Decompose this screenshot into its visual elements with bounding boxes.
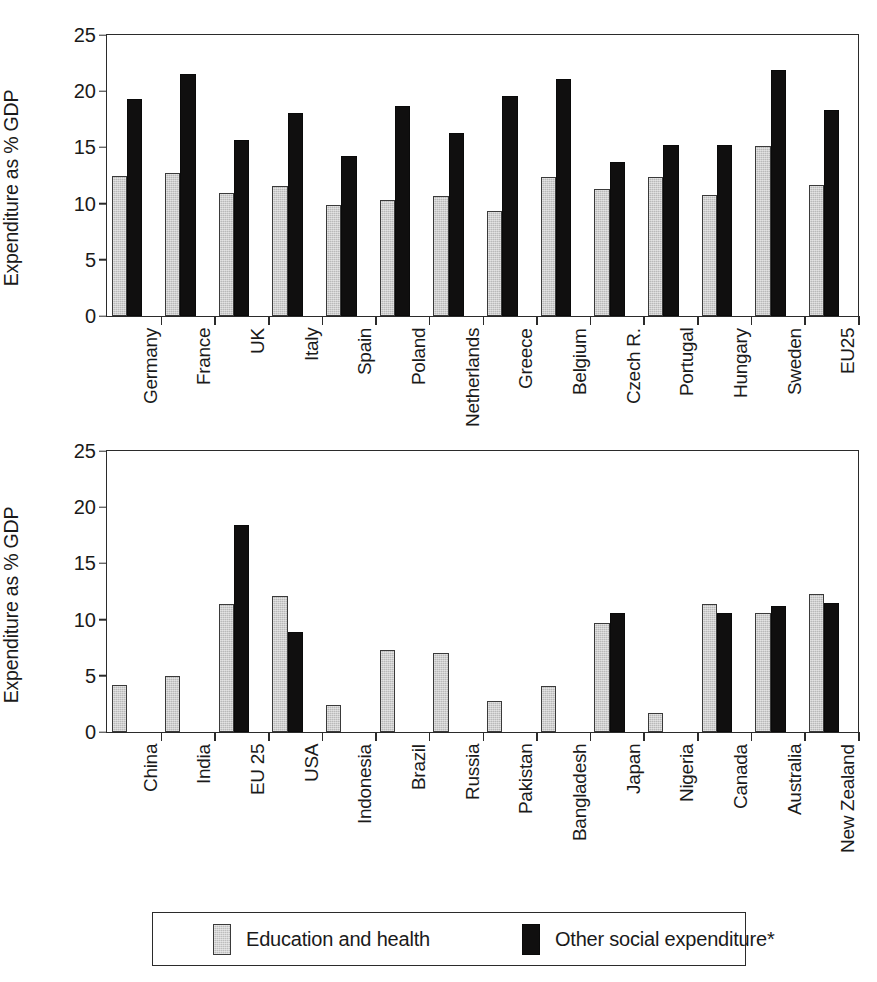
plot-area-top: 0510152025 xyxy=(106,34,859,317)
bar xyxy=(180,74,195,316)
x-axis-tick xyxy=(429,316,431,325)
x-axis-tick xyxy=(214,732,216,741)
y-axis-tick-label: 20 xyxy=(74,496,107,519)
x-axis-label-text: Bangladesh xyxy=(569,744,591,841)
legend-label: Education and health xyxy=(246,928,430,951)
bar xyxy=(165,676,180,732)
y-axis-tick-label: 25 xyxy=(74,24,107,47)
bar xyxy=(755,146,770,316)
x-axis-label-text: Canada xyxy=(730,744,752,809)
x-axis-tick xyxy=(268,316,270,325)
x-axis-tick xyxy=(322,732,324,741)
x-axis-tick xyxy=(590,732,592,741)
x-axis-tick xyxy=(751,732,753,741)
bar-group xyxy=(268,35,322,316)
x-axis-label-text: China xyxy=(140,744,162,792)
x-axis-label-text: Netherlands xyxy=(462,328,484,427)
bar xyxy=(594,189,609,316)
bar xyxy=(717,613,732,732)
bar xyxy=(771,606,786,732)
x-axis-label-text: Spain xyxy=(354,328,376,375)
bar xyxy=(326,705,341,732)
bar xyxy=(487,211,502,316)
bar-group xyxy=(804,35,858,316)
x-axis-tick xyxy=(161,732,163,741)
bar-group xyxy=(429,451,483,732)
bar xyxy=(502,96,517,316)
chart-panel-bottom: Expenditure as % GDP 0510152025 ChinaInd… xyxy=(0,428,877,898)
y-axis-tick-label: 10 xyxy=(74,192,107,215)
bar xyxy=(717,145,732,316)
bar xyxy=(610,162,625,316)
x-axis-label-text: New Zealand xyxy=(837,744,859,853)
bar-group xyxy=(429,35,483,316)
bar xyxy=(771,70,786,316)
x-axis-label-text: Indonesia xyxy=(354,744,376,824)
x-axis-label-text: EU 25 xyxy=(247,744,269,795)
x-axis-tick xyxy=(483,316,485,325)
x-axis-labels-bottom: ChinaIndiaEU 25USAIndonesiaBrazilRussiaP… xyxy=(106,744,859,894)
bar-group xyxy=(536,35,590,316)
x-axis-label-text: Russia xyxy=(462,744,484,800)
bar xyxy=(272,596,287,732)
bars-layer-bottom xyxy=(107,451,858,732)
x-axis-tick xyxy=(751,316,753,325)
bar xyxy=(112,176,127,317)
y-axis-tick-label: 15 xyxy=(74,136,107,159)
bar xyxy=(648,713,663,732)
chart-legend: Education and healthOther social expendi… xyxy=(152,912,746,966)
bar-group xyxy=(643,451,697,732)
y-axis-tick-label: 0 xyxy=(85,305,107,328)
bar xyxy=(234,140,249,316)
bar xyxy=(809,185,824,317)
x-axis-tick xyxy=(536,732,538,741)
x-axis-label-text: Italy xyxy=(301,328,323,361)
bar-group xyxy=(751,35,805,316)
x-axis-label-text: Hungary xyxy=(730,328,752,398)
bar xyxy=(648,177,663,316)
bar xyxy=(702,604,717,732)
y-axis-tick-label: 20 xyxy=(74,80,107,103)
bar-group xyxy=(751,451,805,732)
x-axis-label-text: Germany xyxy=(140,328,162,404)
legend-label: Other social expenditure* xyxy=(555,928,775,951)
legend-item: Other social expenditure* xyxy=(522,913,775,965)
bar-group xyxy=(322,35,376,316)
x-axis-label-text: Japan xyxy=(623,744,645,794)
bar xyxy=(433,653,448,732)
bar-group xyxy=(161,35,215,316)
x-axis-tick xyxy=(483,732,485,741)
bar-group xyxy=(268,451,322,732)
bar xyxy=(165,173,180,316)
figure: Expenditure as % GDP 0510152025 GermanyF… xyxy=(0,0,877,982)
bar xyxy=(824,603,839,732)
x-axis-tick xyxy=(643,316,645,325)
x-axis-label-text: Sweden xyxy=(784,328,806,395)
x-axis-label-text: Greece xyxy=(515,328,537,389)
bar-group xyxy=(107,35,161,316)
plot-area-bottom: 0510152025 xyxy=(106,450,859,733)
x-axis-tick xyxy=(590,316,592,325)
bar-group xyxy=(161,451,215,732)
x-axis-tick xyxy=(697,316,699,325)
bar xyxy=(288,113,303,316)
x-axis-tick xyxy=(375,316,377,325)
x-axis-tick xyxy=(643,732,645,741)
bar-group xyxy=(697,451,751,732)
x-axis-label-text: EU25 xyxy=(837,328,859,374)
bar-group xyxy=(697,35,751,316)
bar-group xyxy=(214,35,268,316)
x-axis-label-text: India xyxy=(193,744,215,784)
bar-group xyxy=(322,451,376,732)
bar xyxy=(610,613,625,732)
legend-swatch-other_social xyxy=(522,924,540,955)
x-axis-label-text: Portugal xyxy=(676,328,698,396)
x-axis-label-text: Brazil xyxy=(408,744,430,790)
bar xyxy=(219,604,234,732)
y-axis-tick-label: 5 xyxy=(85,664,107,687)
bar xyxy=(556,79,571,316)
x-axis-tick xyxy=(161,316,163,325)
bar-group xyxy=(483,451,537,732)
bar xyxy=(449,133,464,316)
x-axis-label-text: Belgium xyxy=(569,328,591,395)
